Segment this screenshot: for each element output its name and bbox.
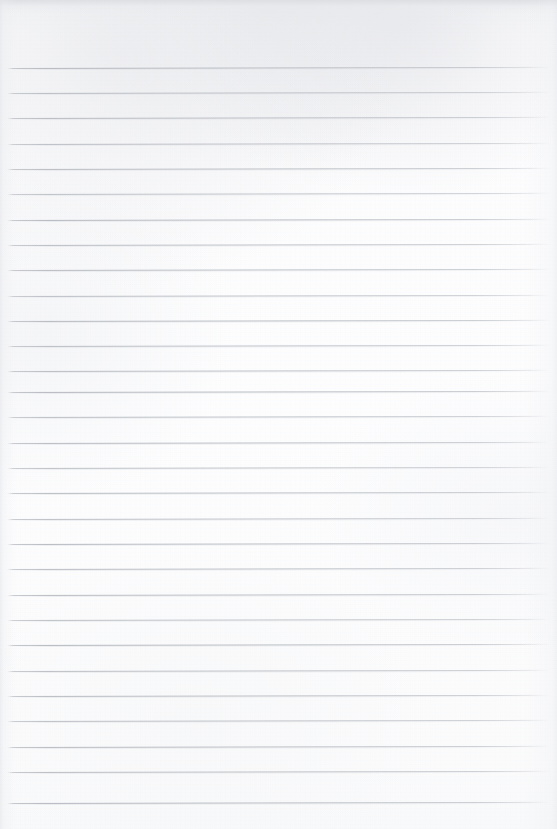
lined-paper-page xyxy=(0,0,557,829)
paper-background xyxy=(0,0,557,829)
